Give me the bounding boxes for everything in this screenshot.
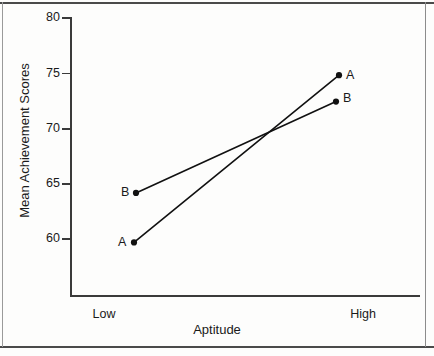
point-label-a-low: A [118, 236, 126, 249]
y-axis-title: Mean Achievement Scores [17, 41, 32, 241]
data-point-b-high [333, 99, 339, 105]
point-label-a-high: A [346, 69, 354, 82]
point-label-b-high: B [343, 92, 351, 105]
data-point-a-low [131, 239, 137, 245]
data-point-b-low [133, 190, 139, 196]
data-point-a-high [336, 72, 342, 78]
x-category-label-low: Low [74, 308, 134, 321]
point-label-b-low: B [121, 186, 129, 199]
x-category-label-high: High [333, 308, 393, 321]
chart-figure: 80 75 70 65 60 A B A B Low High Aptitude [0, 0, 434, 356]
x-axis-title: Aptitude [0, 322, 434, 337]
series-line-b [136, 102, 336, 193]
plot-area [0, 0, 434, 356]
series-line-a [134, 75, 339, 242]
